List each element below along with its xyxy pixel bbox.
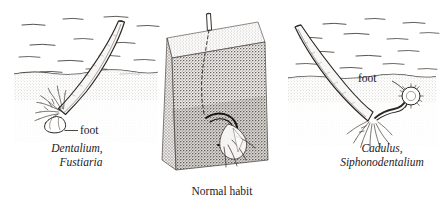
caption-right-line1: Cadulus,	[316, 141, 448, 155]
center-panel-scene	[162, 13, 268, 170]
shell-posterior-tip	[207, 13, 212, 30]
caption-right-line2: Siphonodentalium	[316, 155, 448, 169]
caption-right: Cadulus, Siphonodentalium	[316, 141, 448, 169]
caption-left-line2: Fustiaria	[12, 155, 142, 169]
caption-left: Dentalium, Fustiaria	[12, 141, 142, 169]
figure-artwork: foot	[0, 0, 448, 205]
caption-center: Normal habit	[152, 184, 292, 198]
caption-left-line1: Dentalium,	[12, 141, 142, 155]
foot-label-right: foot	[358, 72, 377, 84]
scaphopod-habit-figure: foot	[0, 0, 448, 205]
foot-label-left: foot	[80, 124, 99, 136]
